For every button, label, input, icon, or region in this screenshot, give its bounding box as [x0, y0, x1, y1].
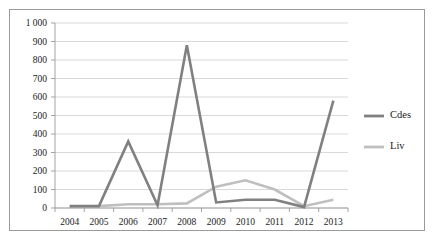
y-tick-label: 0 [42, 203, 47, 213]
y-tick-label: 800 [33, 55, 48, 65]
y-tick-label: 600 [33, 92, 48, 102]
x-tick-label: 2007 [148, 217, 167, 227]
y-tick-label: 1 000 [26, 18, 48, 28]
y-axis: 01002003004005006007008009001 000 [26, 18, 55, 213]
y-tick-label: 400 [33, 129, 48, 139]
series-line-cdes [70, 45, 334, 207]
y-tick-label: 700 [33, 74, 48, 84]
x-tick-label: 2009 [207, 217, 226, 227]
y-tick-label: 500 [33, 111, 48, 121]
y-tick-label: 200 [33, 166, 48, 176]
legend-label-cdes: Cdes [390, 109, 411, 120]
legend-label-liv: Liv [390, 140, 405, 151]
gridlines-group [55, 23, 348, 208]
x-tick-label: 2012 [295, 217, 314, 227]
x-tick-label: 2008 [177, 217, 196, 227]
x-tick-label: 2005 [89, 217, 108, 227]
chart-legend: CdesLiv [364, 109, 411, 151]
y-tick-label: 900 [33, 37, 48, 47]
chart-figure: 01002003004005006007008009001 000 200420… [0, 0, 435, 244]
x-tick-label: 2010 [236, 217, 255, 227]
line-chart: 01002003004005006007008009001 000 200420… [0, 0, 435, 244]
y-tick-label: 300 [33, 148, 48, 158]
series-group [70, 45, 334, 207]
x-tick-label: 2006 [119, 217, 138, 227]
x-tick-label: 2004 [60, 217, 79, 227]
x-tick-label: 2013 [324, 217, 343, 227]
x-axis: 2004200520062007200820092010201120122013 [55, 208, 348, 227]
x-tick-label: 2011 [265, 217, 284, 227]
y-tick-label: 100 [33, 185, 48, 195]
